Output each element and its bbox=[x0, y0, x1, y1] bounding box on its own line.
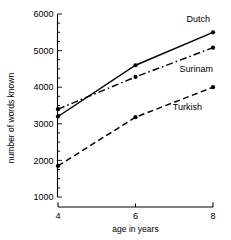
data-point-surinam bbox=[133, 75, 137, 79]
y-axis-title: number of words known bbox=[6, 73, 16, 164]
y-axis-tick-label: 5000 bbox=[33, 46, 53, 56]
x-axis-title: age in years bbox=[112, 224, 158, 234]
series-label-dutch: Dutch bbox=[186, 14, 210, 24]
y-axis-tick-label: 3000 bbox=[33, 119, 53, 129]
data-point-surinam bbox=[211, 46, 215, 50]
line-chart: 100020003000400050006000number of words … bbox=[0, 0, 231, 240]
series-label-turkish: Turkish bbox=[173, 102, 202, 112]
series-label-surinam: Surinam bbox=[179, 64, 213, 74]
y-axis-tick-label: 4000 bbox=[33, 82, 53, 92]
chart-container: 100020003000400050006000number of words … bbox=[0, 0, 231, 240]
data-point-surinam bbox=[56, 107, 60, 111]
y-axis-tick-label: 2000 bbox=[33, 156, 53, 166]
data-point-turkish bbox=[133, 115, 137, 119]
x-axis-tick-label: 4 bbox=[55, 211, 60, 221]
data-point-dutch bbox=[133, 63, 137, 67]
x-axis-tick-label: 6 bbox=[133, 211, 138, 221]
data-point-turkish bbox=[56, 164, 60, 168]
y-axis-tick-label: 1000 bbox=[33, 192, 53, 202]
data-point-dutch bbox=[211, 30, 215, 34]
data-point-turkish bbox=[211, 85, 215, 89]
y-axis-tick-label: 6000 bbox=[33, 9, 53, 19]
x-axis-tick-label: 8 bbox=[210, 211, 215, 221]
data-point-dutch bbox=[56, 114, 60, 118]
